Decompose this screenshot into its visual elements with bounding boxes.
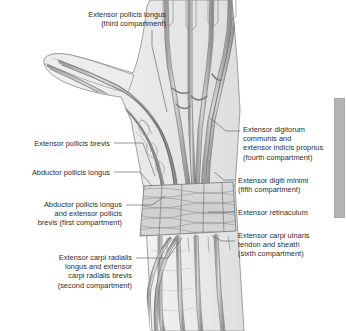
extensor-retinaculum [138, 182, 240, 237]
figure-viewer: Extensor pollicis longus (third compartm… [0, 0, 346, 331]
hand-outline [44, 0, 244, 331]
scrollbar-thumb[interactable] [334, 98, 345, 218]
anatomical-illustration [0, 0, 346, 331]
scrollbar-track[interactable] [333, 0, 346, 331]
